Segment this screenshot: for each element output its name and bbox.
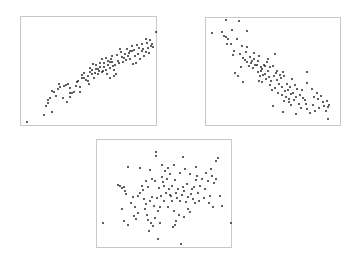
data-point [113, 69, 115, 71]
data-point [79, 91, 81, 93]
data-point [178, 214, 180, 216]
data-point [175, 220, 177, 222]
data-point [156, 197, 158, 199]
data-point [296, 88, 298, 90]
chart-negative-correlation [205, 17, 341, 126]
data-point [174, 179, 176, 181]
data-point [276, 79, 278, 81]
data-point [225, 19, 227, 21]
data-point [170, 195, 172, 197]
data-point [176, 197, 178, 199]
data-point [233, 50, 235, 52]
data-point [161, 164, 163, 166]
data-point [246, 46, 248, 48]
data-point [145, 38, 147, 40]
data-point [288, 101, 290, 103]
data-point [145, 51, 147, 53]
data-point [320, 95, 322, 97]
data-point [155, 31, 157, 33]
data-point [289, 86, 291, 88]
data-point [280, 77, 282, 79]
data-point [125, 193, 127, 195]
data-point [125, 59, 127, 61]
data-point [95, 64, 97, 66]
data-point [94, 72, 96, 74]
data-point [98, 70, 100, 72]
data-point [322, 101, 324, 103]
data-point [139, 167, 141, 169]
data-point [249, 56, 251, 58]
data-point [141, 185, 143, 187]
data-point [159, 222, 161, 224]
data-point [199, 185, 201, 187]
data-point [109, 67, 111, 69]
data-point [110, 58, 112, 60]
data-point [316, 92, 318, 94]
data-point [217, 157, 219, 159]
data-point [171, 200, 173, 202]
data-point [151, 178, 153, 180]
data-point [134, 206, 136, 208]
data-point [268, 76, 270, 78]
data-point [298, 103, 300, 105]
data-point [294, 84, 296, 86]
data-point [119, 48, 121, 50]
data-point [211, 32, 213, 34]
data-point [127, 224, 129, 226]
data-point [281, 94, 283, 96]
data-point [127, 166, 129, 168]
data-point [291, 78, 293, 80]
data-point [69, 87, 71, 89]
data-point [276, 70, 278, 72]
data-point [186, 183, 188, 185]
data-point [47, 102, 49, 104]
data-point [184, 168, 186, 170]
data-point [141, 43, 143, 45]
data-point [173, 164, 175, 166]
data-point [101, 58, 103, 60]
data-point [210, 168, 212, 170]
data-point [133, 215, 135, 217]
data-point [304, 99, 306, 101]
data-point [213, 182, 215, 184]
data-point [286, 83, 288, 85]
data-point [264, 73, 266, 75]
data-point [219, 195, 221, 197]
data-point [238, 20, 240, 22]
data-point [143, 198, 145, 200]
data-point [137, 53, 139, 55]
data-point [152, 225, 154, 227]
data-point [205, 172, 207, 174]
data-point [142, 189, 144, 191]
data-point [142, 48, 144, 50]
data-point [120, 51, 122, 53]
data-point [198, 200, 200, 202]
data-point [221, 31, 223, 33]
data-point [163, 185, 165, 187]
data-point [261, 81, 263, 83]
data-point [271, 89, 273, 91]
data-point [149, 200, 151, 202]
data-point [116, 54, 118, 56]
data-point [177, 188, 179, 190]
data-point [264, 65, 266, 67]
data-point [152, 46, 154, 48]
data-point [103, 62, 105, 64]
data-point [290, 104, 292, 106]
data-point [145, 180, 147, 182]
data-point [259, 75, 261, 77]
data-point [231, 29, 233, 31]
data-point [252, 67, 254, 69]
data-point [239, 53, 241, 55]
data-point [97, 73, 99, 75]
data-point [309, 112, 311, 114]
data-point [105, 57, 107, 59]
data-point [130, 202, 132, 204]
data-point [167, 206, 169, 208]
data-point [154, 217, 156, 219]
data-point [236, 38, 238, 40]
data-point [168, 188, 170, 190]
data-point [55, 95, 57, 97]
data-point [179, 172, 181, 174]
data-point [278, 83, 280, 85]
